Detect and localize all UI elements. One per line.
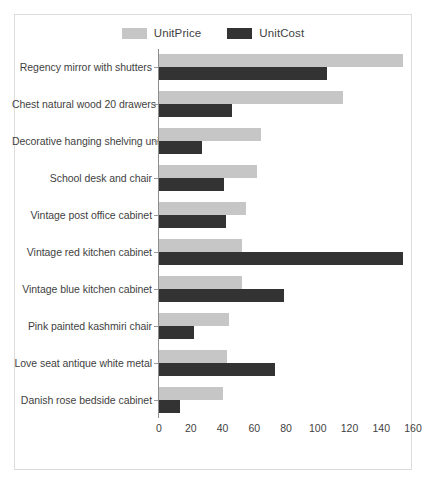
category-label: Vintage post office cabinet bbox=[12, 209, 152, 221]
legend-swatch-unitcost bbox=[227, 28, 252, 39]
bar-unitprice[interactable] bbox=[159, 202, 246, 215]
category-label: Vintage red kitchen cabinet bbox=[12, 246, 152, 258]
category-label: School desk and chair bbox=[12, 172, 152, 184]
category-axis: Regency mirror with shuttersChest natura… bbox=[15, 49, 158, 418]
legend-item-unitcost[interactable]: UnitCost bbox=[227, 27, 304, 39]
category-tick-mark bbox=[154, 141, 158, 142]
category-tick-mark bbox=[154, 289, 158, 290]
value-axis: 020406080100120140160 bbox=[15, 418, 413, 442]
value-axis-tick-label: 0 bbox=[144, 422, 174, 434]
category-tick-mark bbox=[154, 400, 158, 401]
value-axis-tick-label: 160 bbox=[398, 422, 426, 434]
category-tick-mark bbox=[154, 252, 158, 253]
bar-unitprice[interactable] bbox=[159, 350, 227, 363]
value-axis-tick-label: 100 bbox=[303, 422, 333, 434]
bar-unitprice[interactable] bbox=[159, 276, 242, 289]
bar-unitprice[interactable] bbox=[159, 128, 261, 141]
bar-unitcost[interactable] bbox=[159, 178, 224, 191]
category-label: Love seat antique white metal bbox=[12, 357, 152, 369]
value-axis-tick-label: 60 bbox=[239, 422, 269, 434]
category-tick-mark bbox=[154, 178, 158, 179]
category-tick-mark bbox=[154, 215, 158, 216]
legend-swatch-unitprice bbox=[122, 28, 147, 39]
bar-unitcost[interactable] bbox=[159, 104, 232, 117]
plot-area: Regency mirror with shuttersChest natura… bbox=[15, 49, 413, 449]
value-axis-tick-label: 40 bbox=[208, 422, 238, 434]
category-tick-mark bbox=[154, 104, 158, 105]
bar-unitcost[interactable] bbox=[159, 215, 226, 228]
bar-unitcost[interactable] bbox=[159, 67, 327, 80]
bar-unitprice[interactable] bbox=[159, 387, 223, 400]
bar-unitcost[interactable] bbox=[159, 141, 202, 154]
bar-unitprice[interactable] bbox=[159, 313, 229, 326]
bars-layer bbox=[159, 49, 413, 418]
bar-unitcost[interactable] bbox=[159, 363, 275, 376]
bar-unitprice[interactable] bbox=[159, 239, 242, 252]
bar-unitprice[interactable] bbox=[159, 165, 257, 178]
value-axis-tick-label: 80 bbox=[271, 422, 301, 434]
legend-label-unitcost: UnitCost bbox=[259, 27, 304, 39]
bar-unitcost[interactable] bbox=[159, 289, 284, 302]
category-tick-mark bbox=[154, 67, 158, 68]
bar-unitprice[interactable] bbox=[159, 54, 403, 67]
bar-unitcost[interactable] bbox=[159, 326, 194, 339]
chart-legend: UnitPrice UnitCost bbox=[15, 27, 411, 39]
category-label: Decorative hanging shelving unit bbox=[12, 135, 152, 147]
legend-item-unitprice[interactable]: UnitPrice bbox=[122, 27, 202, 39]
value-axis-tick-label: 120 bbox=[335, 422, 365, 434]
category-label: Vintage blue kitchen cabinet bbox=[12, 283, 152, 295]
category-tick-mark bbox=[154, 326, 158, 327]
category-label: Danish rose bedside cabinet bbox=[12, 394, 152, 406]
category-label: Chest natural wood 20 drawers bbox=[12, 98, 152, 110]
bar-unitcost[interactable] bbox=[159, 400, 180, 413]
bar-unitprice[interactable] bbox=[159, 91, 343, 104]
bar-unitcost[interactable] bbox=[159, 252, 403, 265]
category-label: Regency mirror with shutters bbox=[12, 61, 152, 73]
chart-container: UnitPrice UnitCost Regency mirror with s… bbox=[14, 14, 412, 470]
value-axis-tick-label: 20 bbox=[176, 422, 206, 434]
value-axis-tick-label: 140 bbox=[366, 422, 396, 434]
category-tick-mark bbox=[154, 363, 158, 364]
category-label: Pink painted kashmiri chair bbox=[12, 320, 152, 332]
legend-label-unitprice: UnitPrice bbox=[154, 27, 202, 39]
